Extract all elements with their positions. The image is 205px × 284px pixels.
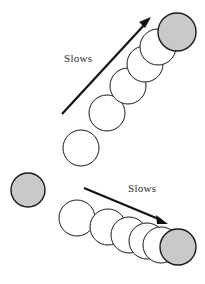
- upper-panel: Slows: [62, 13, 196, 166]
- ball-filled-start: [11, 173, 45, 207]
- upper-slows-label: Slows: [64, 52, 92, 64]
- lower-ball-chain: [59, 200, 196, 265]
- ball-filled: [158, 13, 196, 51]
- lower-arrow-head: [156, 215, 168, 224]
- lower-slows-label: Slows: [128, 182, 156, 194]
- figure-canvas: Slows Slows: [0, 0, 205, 284]
- ball-open: [63, 130, 99, 166]
- upper-arrow-head: [139, 17, 151, 28]
- upper-ball-chain: [63, 13, 196, 166]
- motion-diagram-figure: Slows Slows: [0, 0, 205, 284]
- ball-filled: [160, 229, 196, 265]
- lower-panel: Slows: [11, 173, 196, 265]
- ball-open: [59, 200, 95, 236]
